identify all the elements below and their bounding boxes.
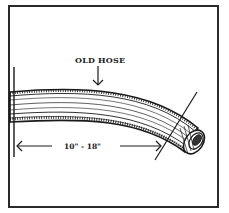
hose-body (10, 89, 198, 152)
dimension-arrow-left (17, 141, 52, 151)
hose-illustration (0, 0, 229, 213)
old-hose-label: OLD HOSE (75, 55, 125, 65)
hose-pointer-arrow (93, 66, 103, 85)
dimension-arrow-right (120, 141, 161, 151)
measurement-label: 10" - 18" (64, 142, 101, 151)
